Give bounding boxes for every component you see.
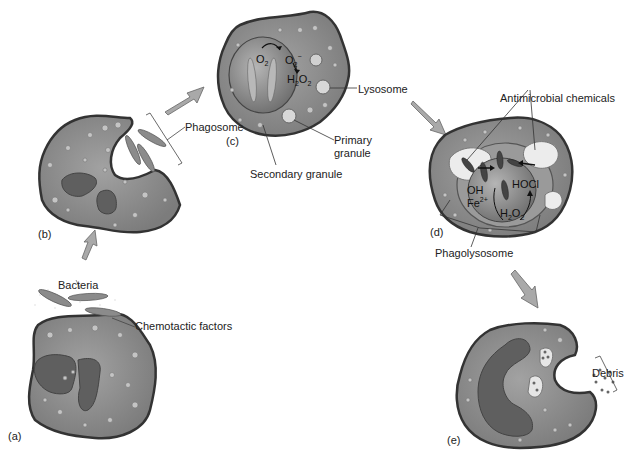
label-phagosome: Phagosome [185, 121, 244, 133]
bacteria-group [34, 287, 121, 318]
panel-label-e: (e) [447, 434, 460, 446]
label-lysosome: Lysosome [358, 83, 408, 95]
chem-oh: OH [467, 184, 484, 196]
chem-hocl: HOCl [512, 178, 539, 190]
label-bacteria: Bacteria [58, 279, 98, 291]
arrow-c-to-d [411, 101, 446, 135]
bacteria-in-phagosome [123, 127, 168, 174]
chem-h2o2-c: H2O2 [287, 73, 311, 87]
chem-fe: Fe2+ [467, 196, 488, 209]
chem-superoxide: O2− [285, 53, 302, 68]
label-chemotactic-factors: Chemotactic factors [135, 320, 232, 332]
label-phagolysosome: Phagolysosome [435, 247, 513, 259]
lysosome-c [316, 80, 330, 94]
panel-label-a: (a) [8, 430, 21, 442]
cell-c-phagosome-formation [218, 12, 349, 136]
panel-label-d: (d) [430, 226, 443, 238]
label-primary-granule-1: Primary [334, 134, 372, 146]
panel-label-b: (b) [38, 228, 51, 240]
chem-h2o2-d: H2O2 [500, 207, 524, 221]
chem-o2: O2 [256, 53, 268, 67]
arrow-a-to-b [82, 230, 97, 260]
cell-b-phagocytosing [39, 116, 180, 233]
cell-e-debris-release [457, 323, 615, 448]
label-primary-granule-2: granule [334, 147, 371, 159]
cell-a-neutrophil [29, 313, 156, 438]
label-debris: Debris [592, 367, 624, 379]
panel-label-c: (c) [226, 135, 239, 147]
primary-granule-c [282, 109, 296, 123]
label-antimicrobial-chemicals: Antimicrobial chemicals [500, 92, 615, 104]
arrow-d-to-e [511, 270, 538, 308]
phagocytosis-diagram [0, 0, 634, 461]
label-secondary-granule: Secondary granule [250, 168, 342, 180]
arrow-b-to-c [165, 87, 204, 115]
